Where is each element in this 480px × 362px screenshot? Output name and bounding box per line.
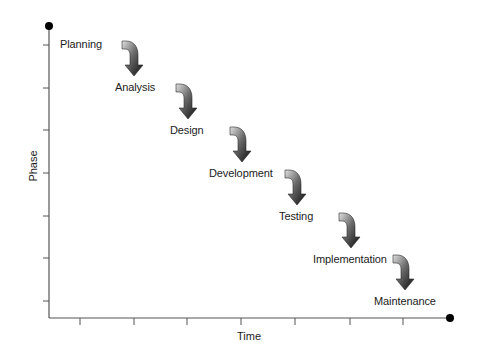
curved-down-arrow-icon [339,213,360,248]
phase-label-implementation: Implementation [313,253,387,265]
diagram-canvas [0,0,480,362]
y-axis-origin-dot [45,22,53,30]
phase-label-planning: Planning [60,38,102,50]
phase-label-analysis: Analysis [115,81,155,93]
x-axis-end-dot [446,314,454,322]
curved-down-arrow-icon [122,41,143,76]
y-axis-title: Phase [27,146,39,186]
curved-down-arrow-icon [176,84,197,119]
x-axis-ticks [80,318,403,325]
waterfall-diagram: PlanningAnalysisDesignDevelopmentTesting… [0,0,480,362]
curved-down-arrow-icon [393,255,414,290]
curved-down-arrow-icon [285,170,306,205]
phase-label-development: Development [209,167,273,179]
phase-label-testing: Testing [279,210,313,222]
x-axis-title: Time [237,330,261,342]
curved-down-arrow-icon [230,127,251,162]
phase-label-design: Design [170,124,204,136]
phase-label-maintenance: Maintenance [374,295,436,307]
y-axis-ticks [43,45,49,301]
